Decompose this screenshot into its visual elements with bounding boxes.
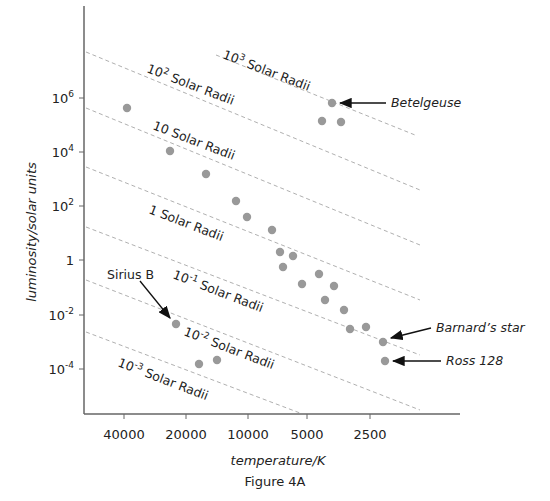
- barnards-star-arrow: [391, 328, 431, 338]
- sirius-b-arrow: [140, 281, 170, 318]
- x-axis-label: temperature/K: [231, 453, 327, 468]
- radius-label: 1 Solar Radii: [147, 202, 226, 244]
- y-tick-label: 1: [66, 253, 74, 268]
- radius-label: 102 Solar Radii: [145, 60, 237, 108]
- y-tick-label: 106: [52, 89, 75, 106]
- x-tick-label: 20000: [165, 427, 206, 442]
- y-tick-label: 104: [52, 143, 75, 160]
- y-tick-label: 10-4: [48, 360, 74, 377]
- y-axis-label: luminosity/solar units: [24, 162, 39, 302]
- barnards-star-label: Barnard’s star: [436, 320, 526, 335]
- x-tick-label: 10000: [227, 427, 268, 442]
- y-tick-label: 10-2: [48, 306, 74, 323]
- ross-128-label: Ross 128: [446, 353, 503, 368]
- radius-label: 103 Solar Radii: [221, 46, 313, 94]
- hr-diagram: 106 104 102 1 10-2 10-4 40000 20000 1000…: [0, 0, 550, 501]
- x-tick-label: 40000: [103, 427, 144, 442]
- sirius-b-label: Sirius B: [107, 267, 154, 282]
- figure-caption: Figure 4A: [245, 474, 306, 489]
- x-tick-label: 5000: [290, 427, 323, 442]
- data-points: [123, 99, 389, 368]
- y-tick-label: 102: [52, 197, 74, 214]
- x-tick-label: 2500: [353, 427, 386, 442]
- betelgeuse-label: Betelgeuse: [391, 95, 461, 110]
